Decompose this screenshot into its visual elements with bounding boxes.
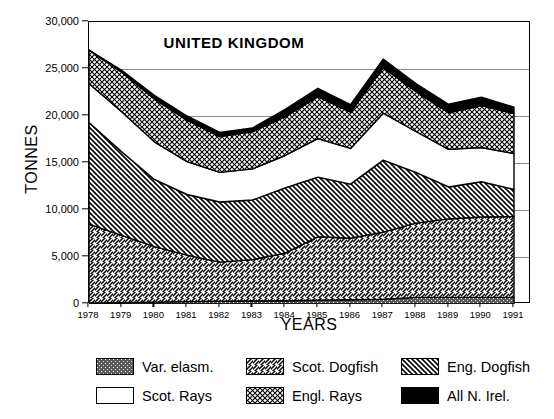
legend-label: All N. Irel. xyxy=(447,388,510,404)
legend-swatch xyxy=(401,358,439,375)
y-tick-mark xyxy=(82,20,88,21)
y-tick-label: 10,000 xyxy=(23,203,79,215)
x-tick-mark xyxy=(153,303,154,307)
legend-item: All N. Irel. xyxy=(401,387,551,404)
legend-item: Var. elasm. xyxy=(96,358,246,375)
y-tick-mark xyxy=(82,255,88,256)
y-tick-label: 5,000 xyxy=(23,250,79,262)
chart-figure: TONNES xyxy=(0,0,554,419)
chart-legend: Var. elasm.Scot. DogfishEng. DogfishScot… xyxy=(96,352,516,410)
legend-label: Eng. Dogfish xyxy=(447,359,530,375)
y-tick-mark xyxy=(82,67,88,68)
x-tick-mark xyxy=(512,303,513,307)
legend-swatch xyxy=(246,387,284,404)
stacked-area-series xyxy=(89,22,531,304)
y-tick-label: 15,000 xyxy=(23,156,79,168)
x-tick-mark xyxy=(414,303,415,307)
legend-item: Scot. Dogfish xyxy=(246,358,401,375)
legend-label: Scot. Dogfish xyxy=(292,359,378,375)
y-tick-label: 30,000 xyxy=(23,15,79,27)
x-tick-mark xyxy=(218,303,219,307)
x-tick-mark xyxy=(349,303,350,307)
y-tick-mark xyxy=(82,208,88,209)
y-tick-label: 20,000 xyxy=(23,109,79,121)
x-tick-mark xyxy=(447,303,448,307)
y-tick-mark xyxy=(82,161,88,162)
x-tick-mark xyxy=(87,303,88,307)
x-tick-mark xyxy=(120,303,121,307)
legend-swatch xyxy=(401,387,439,404)
x-tick-mark xyxy=(382,303,383,307)
legend-item: Eng. Dogfish xyxy=(401,358,551,375)
legend-swatch xyxy=(96,387,134,404)
legend-item: Engl. Rays xyxy=(246,387,401,404)
plot-area: UNITED KINGDOM xyxy=(88,21,530,303)
y-tick-label: 0 xyxy=(23,297,79,309)
y-tick-label: 25,000 xyxy=(23,62,79,74)
x-tick-mark xyxy=(480,303,481,307)
legend-swatch xyxy=(96,358,134,375)
legend-item: Scot. Rays xyxy=(96,387,246,404)
x-tick-mark xyxy=(316,303,317,307)
x-tick-mark xyxy=(284,303,285,307)
legend-label: Engl. Rays xyxy=(292,388,362,404)
legend-swatch xyxy=(246,358,284,375)
y-tick-mark xyxy=(82,114,88,115)
legend-label: Var. elasm. xyxy=(142,359,213,375)
x-tick-mark xyxy=(185,303,186,307)
x-tick-mark xyxy=(251,303,252,307)
legend-label: Scot. Rays xyxy=(142,388,212,404)
x-axis-title: YEARS xyxy=(88,316,530,334)
